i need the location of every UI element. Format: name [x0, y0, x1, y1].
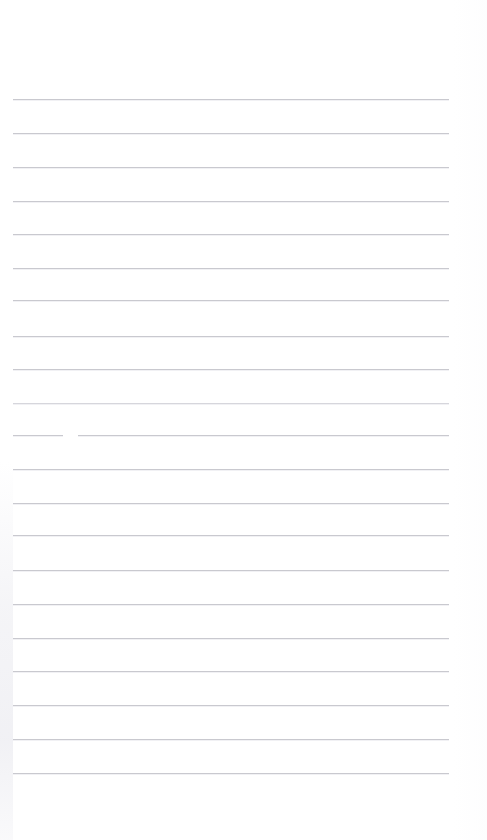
notebook-page: [0, 0, 487, 840]
writing-area[interactable]: [13, 80, 449, 790]
